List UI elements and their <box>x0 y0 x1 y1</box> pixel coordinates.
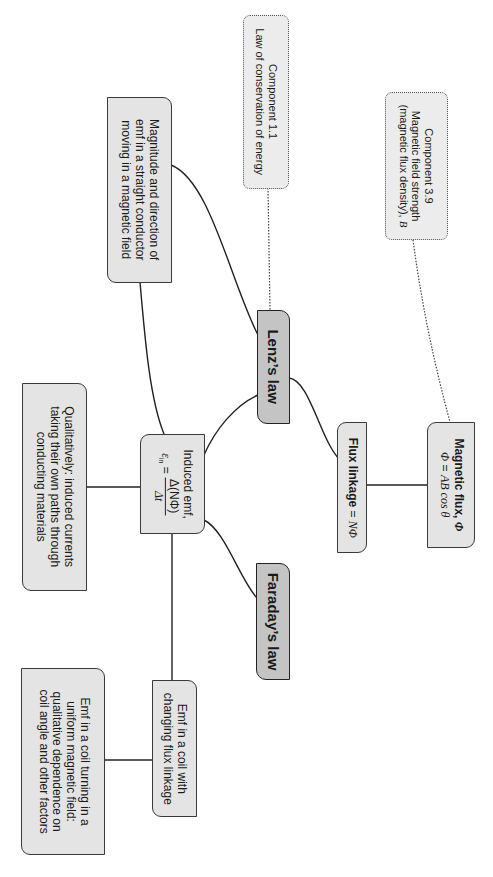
magnitude-line2: emf in a straight conductor <box>133 119 147 260</box>
emf-changing-line1: Emf in a coil with <box>175 692 189 804</box>
magnetic-flux-title: Magnetic flux, <box>452 439 466 522</box>
emf-turning-line2: uniform magnetic field: <box>63 689 77 833</box>
flux-linkage-label: Flux linkage <box>346 437 360 506</box>
link-magnitude-induced <box>140 282 164 434</box>
component-1-1-node: Component 1.1 Law of conservation of ene… <box>243 15 289 189</box>
emf-turning-coil-node: Emf in a coil turning in a uniform magne… <box>21 668 105 855</box>
qualitatively-node: Qualitatively: induced currents taking t… <box>22 383 87 591</box>
emf-turning-line3: qualitative dependence on <box>49 689 63 833</box>
component-3-9-title: Component 3.9 <box>423 105 436 228</box>
component-3-9-line3: (magnetic flux density), B <box>398 105 411 228</box>
qualitatively-line2: taking their own paths through <box>48 407 62 568</box>
link-induced-faraday <box>204 520 257 598</box>
emf-turning-line1: Emf in a coil turning in a <box>77 689 91 833</box>
magnitude-line3: moving in a magnetic field <box>119 119 133 260</box>
component-3-9-line2: Magnetic field strength <box>410 105 423 228</box>
faraday-law-node: Faraday’s law <box>256 563 290 680</box>
component-1-1-title: Component 1.1 <box>266 29 279 176</box>
link-component39-magflux <box>413 240 450 422</box>
qualitatively-line3: conducting materials <box>34 407 48 568</box>
link-component11-lenz <box>268 188 270 310</box>
link-magnitude-lenz <box>171 165 258 335</box>
qualitatively-line1: Qualitatively: induced currents <box>61 407 75 568</box>
component-3-9-node: Component 3.9 Magnetic field strength (m… <box>385 92 448 240</box>
link-lenz-fluxlinkage <box>289 378 340 460</box>
induced-emf-equation: εin = Δ(NΦ)Δt <box>151 449 180 518</box>
lenz-law-label: Lenz’s law <box>265 330 282 404</box>
component-1-1-subtitle: Law of conservation of energy <box>253 29 266 176</box>
emf-changing-flux-node: Emf in a coil with changing flux linkage <box>152 680 197 817</box>
induced-emf-title: Induced emf, <box>180 449 194 518</box>
magnetic-flux-equation: Φ = AB cos θ <box>437 439 451 532</box>
magnitude-direction-node: Magnitude and direction of emf in a stra… <box>107 97 172 283</box>
magnetic-flux-node: Magnetic flux, Φ Φ = AB cos θ <box>427 422 475 548</box>
induced-emf-node: Induced emf, εin = Δ(NΦ)Δt <box>140 434 205 534</box>
magnitude-line1: Magnitude and direction of <box>146 119 160 260</box>
emf-turning-line4: coil angle and other factors <box>35 689 49 833</box>
emf-changing-line2: changing flux linkage <box>161 692 175 804</box>
link-lenz-induced <box>204 395 258 455</box>
flux-linkage-node: Flux linkage = NΦ <box>337 422 367 553</box>
lenz-law-node: Lenz’s law <box>257 310 290 424</box>
faraday-law-label: Faraday’s law <box>264 573 281 671</box>
flux-linkage-symbol: NΦ <box>346 520 360 537</box>
